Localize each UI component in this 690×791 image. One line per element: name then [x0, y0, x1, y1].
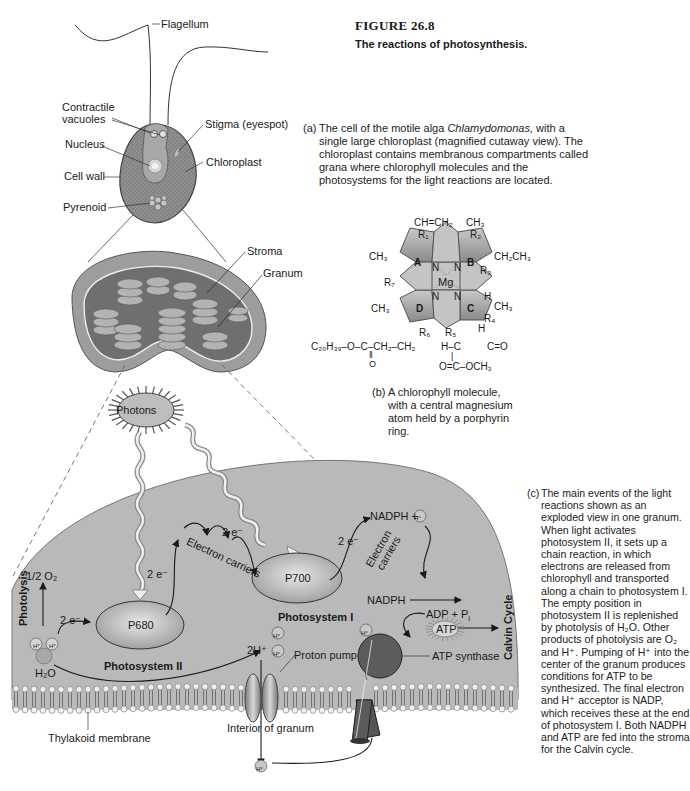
mg-atom: Mg: [438, 276, 453, 289]
label-h-plus-pump-b: H⁺: [273, 648, 280, 661]
chem-r2: R₂: [470, 228, 481, 241]
label-h-plus-synthase: H⁺: [361, 627, 368, 640]
label-h-plus-a: H⁺: [33, 640, 40, 653]
chem-carbonyl-o: O: [369, 358, 376, 371]
caption-a-tag: (a): [303, 122, 316, 135]
label-nucleus: Nucleus: [65, 138, 105, 151]
label-half-o2: 1/2 O₂: [26, 570, 57, 583]
n-d: N: [432, 290, 439, 303]
chem-r1: R₁: [418, 228, 429, 241]
label-chloroplast: Chloroplast: [206, 156, 262, 169]
label-vacuoles: vacuoles: [62, 113, 105, 126]
label-2e-photolysis: 2 e⁻: [60, 614, 81, 627]
label-stigma: Stigma (eyespot): [205, 118, 288, 131]
label-h2o: H₂O: [35, 667, 56, 680]
chem-r4: R₄: [484, 312, 495, 325]
genus-name: Chlamydomonas,: [447, 122, 533, 134]
label-photosystem-ii: Photosystem II: [104, 660, 182, 673]
n-a: N: [432, 261, 439, 274]
label-2e-carriers: 2 e⁻: [222, 526, 243, 539]
label-photosystem-i: Photosystem I: [278, 611, 353, 624]
label-h-plus-nadph: H⁺: [414, 512, 421, 525]
label-granum: Granum: [263, 267, 303, 280]
chem-ch3-c: CH₃: [494, 300, 513, 313]
chem-h-c1: H: [484, 290, 491, 303]
label-stroma: Stroma: [247, 245, 282, 258]
chem-r6: R₆: [419, 326, 430, 339]
chem-ester: O=C–OCH₃: [439, 360, 492, 373]
chem-ch3-d: CH₃: [371, 302, 390, 315]
chem-h-c2: H: [478, 322, 485, 335]
chem-ethyl: CH₂CH₃: [494, 250, 531, 263]
label-p700: P700: [285, 572, 311, 585]
caption-c-tag: (c): [527, 487, 539, 499]
label-2e-psii: 2 e⁻: [147, 568, 168, 581]
label-h-plus-pump-a: H⁺: [273, 630, 280, 643]
label-p680: P680: [128, 619, 154, 632]
ring-c: C: [467, 302, 474, 315]
caption-a: (a) The cell of the motile alga Chlamydo…: [303, 122, 593, 187]
chem-r7: R₇: [384, 276, 395, 289]
label-photons: Photons: [116, 404, 156, 417]
label-proton-pump: Proton pump: [294, 649, 357, 662]
label-nadph-h: NADPH +: [370, 510, 418, 523]
chem-ch3-a: CH₃: [369, 250, 388, 263]
label-atp: ATP: [436, 623, 457, 636]
label-2e-psi: 2 e⁻: [338, 535, 359, 548]
n-b: N: [454, 261, 461, 274]
label-h-plus-b: H⁺: [49, 640, 56, 653]
label-calvin-cycle: Calvin Cycle: [502, 595, 515, 660]
label-flagellum: Flagellum: [161, 18, 209, 31]
label-nadph: NADPH: [367, 594, 406, 607]
chem-r5: R₅: [445, 326, 456, 339]
figure-title: The reactions of photosynthesis.: [355, 38, 527, 50]
ring-b: B: [467, 256, 474, 269]
label-thylakoid-membrane: Thylakoid membrane: [48, 732, 151, 745]
label-interior-of-granum: Interior of granum: [227, 722, 314, 735]
label-pyrenoid: Pyrenoid: [63, 201, 106, 214]
n-c: N: [454, 290, 461, 303]
label-atp-synthase: ATP synthase: [432, 650, 499, 663]
figure-number: FIGURE 26.8: [355, 18, 435, 34]
caption-b: (b) A chlorophyll molecule, with a centr…: [372, 386, 522, 438]
label-cell-wall: Cell wall: [64, 170, 105, 183]
caption-c: (c) The main events of the light reactio…: [527, 487, 690, 755]
label-h-plus-interior: H⁺: [256, 763, 263, 776]
chem-phytyl-tail: C₂₀H₃₉–O–C–CH₂–CH₂: [311, 340, 415, 353]
caption-b-tag: (b): [372, 386, 385, 399]
chem-r3: R₃: [480, 264, 491, 277]
ring-d: D: [416, 302, 423, 315]
label-2h-plus: 2H⁺: [247, 644, 267, 657]
chem-ketone: C=O: [487, 340, 508, 353]
ring-a: A: [414, 256, 421, 269]
